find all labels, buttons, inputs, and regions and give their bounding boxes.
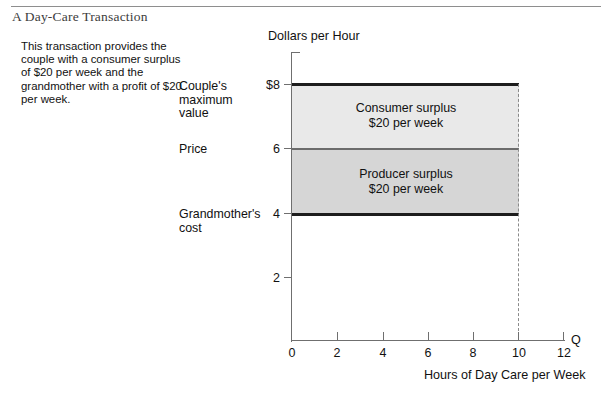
x-tick-label-6: 6 <box>413 346 443 360</box>
grandmother-cost-label-line1: Grandmother's <box>179 208 289 222</box>
x-tick-label-4: 4 <box>368 346 398 360</box>
producer-surplus-label-line2: $20 per week <box>306 182 506 197</box>
consumer-surplus-label-line2: $20 per week <box>306 116 506 131</box>
grandmother-cost-label-line2: cost <box>179 222 289 236</box>
price-line <box>292 148 519 151</box>
x-tick-label-0: 0 <box>277 346 307 360</box>
x-tick-8 <box>473 332 474 341</box>
x-tick-label-12: 12 <box>549 346 579 360</box>
price-label: Price <box>179 143 289 157</box>
x-tick-label-10: 10 <box>504 346 534 360</box>
x-tick-4 <box>383 332 384 341</box>
grandmother-cost-label: Grandmother's cost <box>179 208 289 235</box>
supply-demand-surplus-chart: $8 6 4 2 0 2 4 6 8 10 12 Dollars per Hou… <box>0 0 611 406</box>
y-tick-2 <box>284 277 292 278</box>
figure-page: A Day-Care Transaction This transaction … <box>0 0 611 406</box>
y-tick-label-2: 2 <box>240 271 280 285</box>
producer-surplus-label: Producer surplus $20 per week <box>306 167 506 196</box>
couple-maximum-value-line <box>292 83 519 86</box>
consumer-surplus-label-line1: Consumer surplus <box>306 101 506 116</box>
producer-surplus-label-line1: Producer surplus <box>306 167 506 182</box>
x-tick-label-2: 2 <box>322 346 352 360</box>
x-tick-6 <box>428 332 429 341</box>
consumer-surplus-label: Consumer surplus $20 per week <box>306 101 506 130</box>
couple-maximum-value-label-line3: value <box>179 107 289 121</box>
x-axis-end-cap <box>563 332 564 341</box>
y-axis-title: Dollars per Hour <box>268 29 360 43</box>
x-axis-title: Hours of Day Care per Week <box>424 368 585 382</box>
y-axis-line <box>291 52 292 342</box>
couple-maximum-value-label-line2: maximum <box>179 94 289 108</box>
x-axis-quantity-symbol: Q <box>571 333 581 347</box>
couple-maximum-value-label: Couple's maximum value <box>179 80 289 121</box>
grandmother-cost-line <box>292 213 519 216</box>
quantity-marker-dashed-line <box>518 84 519 341</box>
couple-maximum-value-label-line1: Couple's <box>179 80 289 94</box>
y-axis-top-cap <box>291 52 300 53</box>
x-tick-label-8: 8 <box>458 346 488 360</box>
x-tick-10 <box>518 332 519 341</box>
x-tick-2 <box>337 332 338 341</box>
